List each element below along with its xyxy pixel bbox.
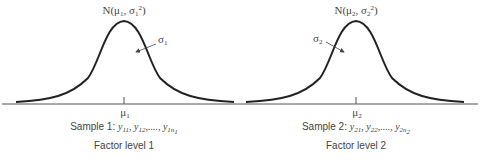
factor-level-label-1: Factor level 1 (94, 140, 154, 151)
distribution-label-2: N(μ2, σ22) (334, 4, 377, 18)
mean-label-1: μ1 (120, 106, 129, 120)
diagram-canvas (0, 0, 480, 160)
sigma-arrow-1 (136, 44, 156, 52)
sample-label-1: Sample 1: y11, y12,...., y1n1 (70, 121, 178, 136)
sigma-label-1: σ1 (158, 33, 167, 47)
factor-level-label-2: Factor level 2 (326, 140, 386, 151)
normal-curve-2 (246, 21, 464, 102)
distribution-label-1: N(μ1, σ12) (102, 4, 145, 18)
mean-label-2: μ2 (352, 106, 361, 120)
sample-label-2: Sample 2: y21, y22,...., y2n2 (302, 121, 410, 136)
sigma-label-2: σ2 (313, 32, 322, 46)
normal-curve-1 (16, 21, 234, 102)
